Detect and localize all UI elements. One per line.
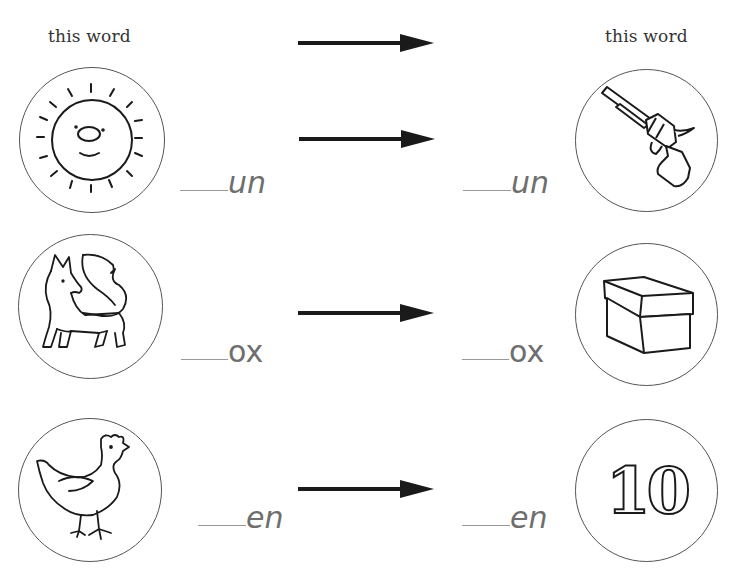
fox-icon [19,235,164,380]
arrow-right-icon [296,303,438,323]
arrow-right-icon [296,33,438,53]
header-this-word-left: this word [48,26,131,46]
hen-picture [18,418,162,562]
blank-line[interactable] [463,190,511,191]
fox-picture [18,234,163,379]
hen-icon [19,419,163,563]
blank-gun[interactable]: un [463,168,549,198]
blank-ten[interactable]: en [462,503,547,533]
word-fragment-en: en [510,503,547,533]
word-fragment-un: un [228,168,266,198]
word-fragment-ox: ox [509,337,544,367]
blank-sun[interactable]: un [180,168,266,198]
blank-line[interactable] [180,190,228,191]
word-fragment-un: un [511,168,549,198]
gun-picture [575,69,718,212]
blank-hen[interactable]: en [198,503,283,533]
blank-line[interactable] [462,525,510,526]
blank-line[interactable] [181,359,228,360]
header-this-word-right: this word [605,26,688,46]
box-icon [576,244,719,387]
ten-numeral: 10 [576,420,717,561]
word-fragment-en: en [246,503,283,533]
gun-icon [576,70,719,213]
sun-icon [20,68,166,214]
arrow-right-icon [297,129,439,149]
blank-box[interactable]: ox [462,337,544,367]
blank-line[interactable] [198,525,246,526]
blank-line[interactable] [462,359,509,360]
box-picture [575,243,718,386]
sun-picture [19,67,165,213]
arrow-right-icon [296,479,438,499]
word-fragment-ox: ox [228,337,263,367]
ten-picture: 10 [575,419,718,562]
blank-fox[interactable]: ox [181,337,263,367]
